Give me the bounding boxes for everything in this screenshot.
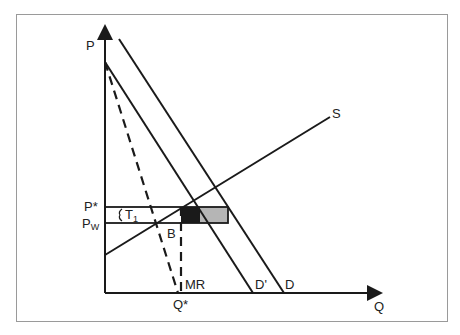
point-b-label: B: [167, 226, 176, 241]
tariff-brace-icon: [119, 209, 122, 221]
diagram-canvas: P Q S D D' MR P* PW Q* T1 B: [0, 0, 460, 335]
y-axis-label: P: [86, 38, 95, 53]
dark-box: [181, 207, 200, 223]
p-world-label: PW: [82, 216, 100, 232]
mr-curve: [105, 62, 178, 293]
p-star-label: P*: [84, 199, 98, 214]
q-star-label: Q*: [173, 297, 188, 312]
mr-label: MR: [185, 277, 205, 292]
supply-curve: [105, 117, 330, 255]
supply-label: S: [332, 106, 341, 121]
x-axis-label: Q: [374, 299, 384, 314]
demand-prime-label: D': [255, 277, 267, 292]
tariff-label: T1: [125, 207, 138, 224]
demand-label: D: [285, 277, 294, 292]
demand-curve-d: [119, 39, 284, 293]
